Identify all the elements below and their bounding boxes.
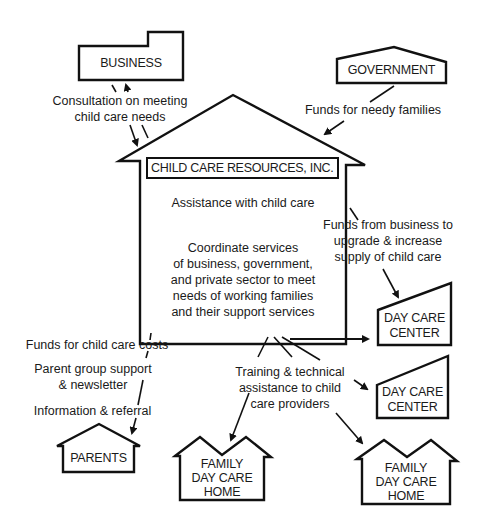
edge-label-business-funds: Funds from business to upgrade & increas… xyxy=(318,217,458,265)
business-node: BUSINESS xyxy=(79,56,183,71)
family-home-2-node: FAMILY DAY CARE HOME xyxy=(362,461,450,503)
coordinate-line-2: of business, government, xyxy=(140,256,346,272)
coordinate-line-4: needs of working families xyxy=(140,288,346,304)
edge-label-training: Training & technical assistance to child… xyxy=(230,364,350,412)
day-care-center-2-line-1: DAY CARE xyxy=(377,385,448,400)
parents-node: PARENTS xyxy=(63,451,134,466)
center-coordinate: Coordinate services of business, governm… xyxy=(140,240,346,320)
day-care-center-1-line-1: DAY CARE xyxy=(378,311,451,326)
training-line-3: care providers xyxy=(230,396,350,412)
edge-label-parents-support: Parent group support & newsletter xyxy=(28,361,158,393)
consultation-line-1: Consultation on meeting xyxy=(40,93,200,109)
family-home-1-line-3: HOME xyxy=(180,485,264,499)
coordinate-line-1: Coordinate services xyxy=(140,240,346,256)
center-title: CHILD CARE RESOURCES, INC. xyxy=(146,157,339,179)
business-funds-line-2: upgrade & increase xyxy=(318,233,458,249)
family-home-1-line-1: FAMILY xyxy=(180,457,264,471)
edge-label-business-consultation: Consultation on meeting child care needs xyxy=(40,93,200,125)
day-care-center-1-line-2: CENTER xyxy=(378,326,451,341)
family-home-1-line-2: DAY CARE xyxy=(180,471,264,485)
day-care-center-1-node: DAY CARE CENTER xyxy=(378,311,451,341)
coordinate-line-3: and private sector to meet xyxy=(140,272,346,288)
family-home-1-node: FAMILY DAY CARE HOME xyxy=(180,457,264,499)
consultation-line-2: child care needs xyxy=(40,109,200,125)
coordinate-line-5: and their support services xyxy=(140,304,346,320)
day-care-center-2-line-2: CENTER xyxy=(377,400,448,415)
center-assistance: Assistance with child care xyxy=(140,195,346,211)
government-node: GOVERNMENT xyxy=(337,63,446,78)
edge-label-parents-info: Information & referral xyxy=(30,403,155,419)
family-home-2-line-3: HOME xyxy=(362,489,450,503)
parents-support-line-2: & newsletter xyxy=(28,377,158,393)
family-home-2-line-2: DAY CARE xyxy=(362,475,450,489)
training-line-2: assistance to child xyxy=(230,380,350,396)
business-funds-line-3: supply of child care xyxy=(318,249,458,265)
business-funds-line-1: Funds from business to xyxy=(318,217,458,233)
family-home-2-line-1: FAMILY xyxy=(362,461,450,475)
edge-label-government-funds: Funds for needy families xyxy=(298,102,448,118)
training-line-1: Training & technical xyxy=(230,364,350,380)
parents-support-line-1: Parent group support xyxy=(28,361,158,377)
day-care-center-2-node: DAY CARE CENTER xyxy=(377,385,448,415)
edge-label-parents-funds: Funds for child care costs xyxy=(22,337,172,353)
